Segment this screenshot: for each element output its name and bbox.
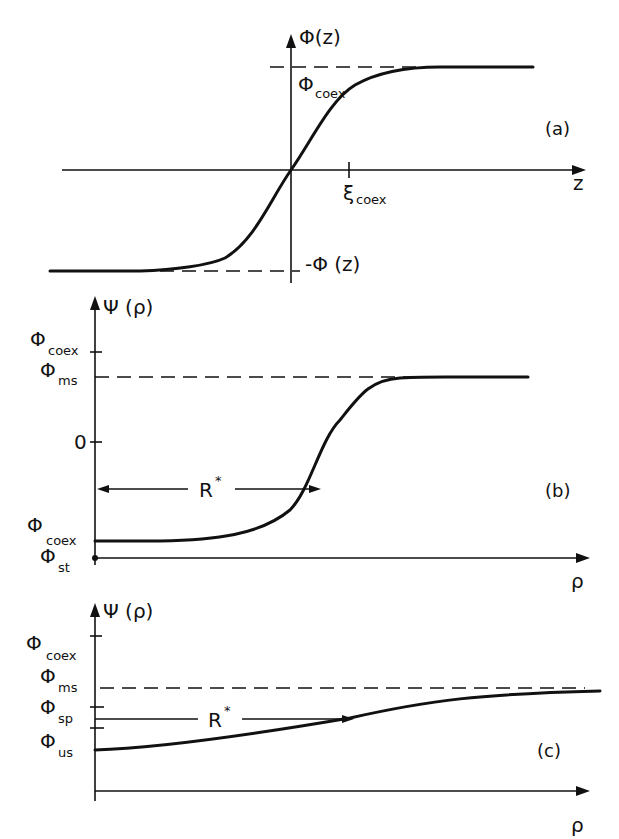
panel-a-xi-sub: coex [356,192,387,207]
panel-c-x-axis-label: ρ [571,813,584,837]
panel-b-tick-label-phi-ms: Φ [40,358,56,382]
panel-b-r-star-right-arrowhead-icon [309,485,321,493]
panel-c-tick-label-phi-coex: Φ [26,631,42,655]
panel-b-tick-label-zero: 0 [74,430,87,454]
panel-b-y-arrow-icon [90,296,100,310]
panel-b-origin-dot [92,555,98,561]
panel-b-r-star-sup: * [215,473,222,488]
panel-b-x-arrow-icon [576,553,590,563]
panel-c-tick-label-phi-us: Φ [40,729,56,753]
panel-a-xi-label: ξ [343,181,354,205]
panel-a-neg-phi-label: -Φ (z) [305,252,360,276]
panel-c-tag: (c) [537,740,561,761]
panel-c-r-star-label: R [208,708,222,732]
panel-b: Ψ (ρ) ρ Φ coex Φ ms 0 Φ coex Φ st R * (b… [27,295,590,593]
panel-a-y-arrow-icon [286,34,296,48]
panel-c-tick-label-phi-sp: Φ [40,695,56,719]
panel-b-profile-curve [95,377,528,541]
panel-c-tick-sub-phi-coex: coex [46,648,77,663]
panel-b-tick-label-phi-st: Φ [40,544,56,568]
panel-c-y-arrow-icon [90,603,100,617]
panel-c-tick-sub-phi-ms: ms [58,680,78,695]
panel-b-r-star-left-arrowhead-icon [97,485,109,493]
panel-c: Ψ (ρ) ρ Φ coex Φ ms Φ sp Φ us R * (c) [26,599,600,837]
panel-b-r-star-label: R [199,478,213,502]
panel-a-phi-coex-label: Φ [298,72,314,96]
panel-c-r-star-sup: * [224,703,231,718]
panel-c-tick-sub-phi-sp: sp [58,711,73,726]
panel-c-tick-label-phi-ms: Φ [40,664,56,688]
panel-b-x-axis-label: ρ [571,569,584,593]
panel-b-tick-sub-phi-ms: ms [58,373,78,388]
panel-a-phi-coex-sub: coex [315,86,346,101]
panel-a-y-axis-label: Φ(z) [299,25,341,49]
panel-b-tick-label-phi-coex-top: Φ [30,327,46,351]
panel-b-tick-sub-phi-st: st [58,560,70,575]
panel-a-tag: (a) [545,118,570,139]
panel-a: Φ(z) z Φ coex -Φ (z) ξ coex (a) [50,25,586,283]
panel-c-tick-sub-phi-us: us [58,745,73,760]
panel-a-x-axis-label: z [573,171,584,195]
panel-b-tick-label-phi-coex-bottom: Φ [27,513,43,537]
panel-b-tick-sub-phi-coex-top: coex [48,343,79,358]
three-panel-profile-figure: Φ(z) z Φ coex -Φ (z) ξ coex (a) Ψ (ρ) ρ … [0,0,619,839]
panel-c-y-axis-label: Ψ (ρ) [103,599,153,623]
panel-c-x-arrow-icon [576,786,590,796]
panel-b-y-axis-label: Ψ (ρ) [103,295,153,319]
panel-b-tag: (b) [545,480,570,501]
